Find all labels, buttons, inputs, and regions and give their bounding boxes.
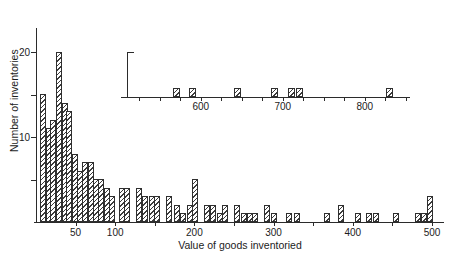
- histogram-bar: [234, 205, 240, 222]
- x-tick-label: 500: [417, 227, 447, 238]
- x-tick: [115, 222, 116, 226]
- histogram-bar: [393, 213, 399, 222]
- histogram-bar: [373, 213, 379, 222]
- x-tick: [194, 222, 195, 226]
- x-tick-label: 300: [259, 227, 289, 238]
- histogram-bar: [210, 205, 216, 222]
- histogram-bar: [241, 213, 247, 222]
- inset-x-tick: [344, 97, 345, 101]
- histogram-bar: [415, 213, 421, 222]
- x-tick: [155, 222, 156, 226]
- histogram-bar: [355, 213, 361, 222]
- inset-x-tick: [180, 97, 181, 101]
- histogram-bar: [294, 213, 300, 222]
- x-tick: [432, 222, 433, 226]
- x-tick: [234, 222, 235, 226]
- y-axis-title: Number of inventories: [8, 49, 20, 152]
- histogram-bar: [180, 213, 186, 222]
- inset-x-axis: [121, 97, 410, 98]
- inset-bar: [234, 88, 241, 97]
- histogram-bar: [222, 205, 228, 222]
- inset-x-tick: [324, 97, 325, 101]
- x-axis: [34, 222, 444, 223]
- x-tick-label: 400: [338, 227, 368, 238]
- inset-x-tick: [221, 97, 222, 101]
- histogram-bar: [166, 196, 172, 222]
- inset-bar: [296, 88, 303, 97]
- inset-bar: [189, 88, 196, 97]
- inset-x-tick: [303, 97, 304, 101]
- inset-x-tick: [160, 97, 161, 101]
- histogram-bar: [338, 205, 344, 222]
- y-tick: [31, 180, 36, 181]
- histogram-bar: [109, 196, 115, 222]
- x-axis-title: Value of goods inventoried: [140, 239, 340, 251]
- histogram-bar: [271, 213, 277, 222]
- x-tick-label: 100: [100, 227, 130, 238]
- inset-x-tick: [385, 97, 386, 101]
- inset-y-axis: [127, 52, 128, 97]
- y-tick: [31, 95, 36, 96]
- histogram-bar: [264, 205, 270, 222]
- y-axis: [36, 28, 37, 222]
- inset-bar: [288, 88, 295, 97]
- histogram-figure: 501002003004005001020 600700800 Number o…: [0, 0, 463, 268]
- histogram-bar: [142, 196, 148, 222]
- inset-x-tick: [139, 97, 140, 101]
- histogram-bar: [154, 196, 160, 222]
- x-tick: [392, 222, 393, 226]
- histogram-bar: [252, 213, 258, 222]
- x-tick-label: 50: [61, 227, 91, 238]
- histogram-bar: [427, 196, 433, 222]
- y-tick: [31, 52, 36, 53]
- x-tick: [274, 222, 275, 226]
- inset-bar: [271, 88, 278, 97]
- x-tick-label: 200: [179, 227, 209, 238]
- histogram-bar: [204, 205, 210, 222]
- histogram-bar: [366, 213, 372, 222]
- x-tick: [353, 222, 354, 226]
- inset-x-tick-label: 600: [186, 101, 216, 112]
- inset-bar: [173, 88, 180, 97]
- y-tick: [31, 137, 36, 138]
- inset-bar: [386, 88, 393, 97]
- histogram-bar: [286, 213, 292, 222]
- inset-y-axis-top-tick: [127, 52, 134, 53]
- histogram-bar: [192, 179, 198, 222]
- inset-x-tick: [262, 97, 263, 101]
- inset-x-tick-label: 700: [268, 101, 298, 112]
- inset-x-tick-label: 800: [350, 101, 380, 112]
- histogram-bar: [136, 188, 142, 222]
- inset-x-tick: [242, 97, 243, 101]
- histogram-bar: [324, 213, 330, 222]
- histogram-bar: [174, 205, 180, 222]
- x-tick: [76, 222, 77, 226]
- x-tick: [313, 222, 314, 226]
- histogram-bar: [124, 188, 130, 222]
- inset-x-tick: [406, 97, 407, 101]
